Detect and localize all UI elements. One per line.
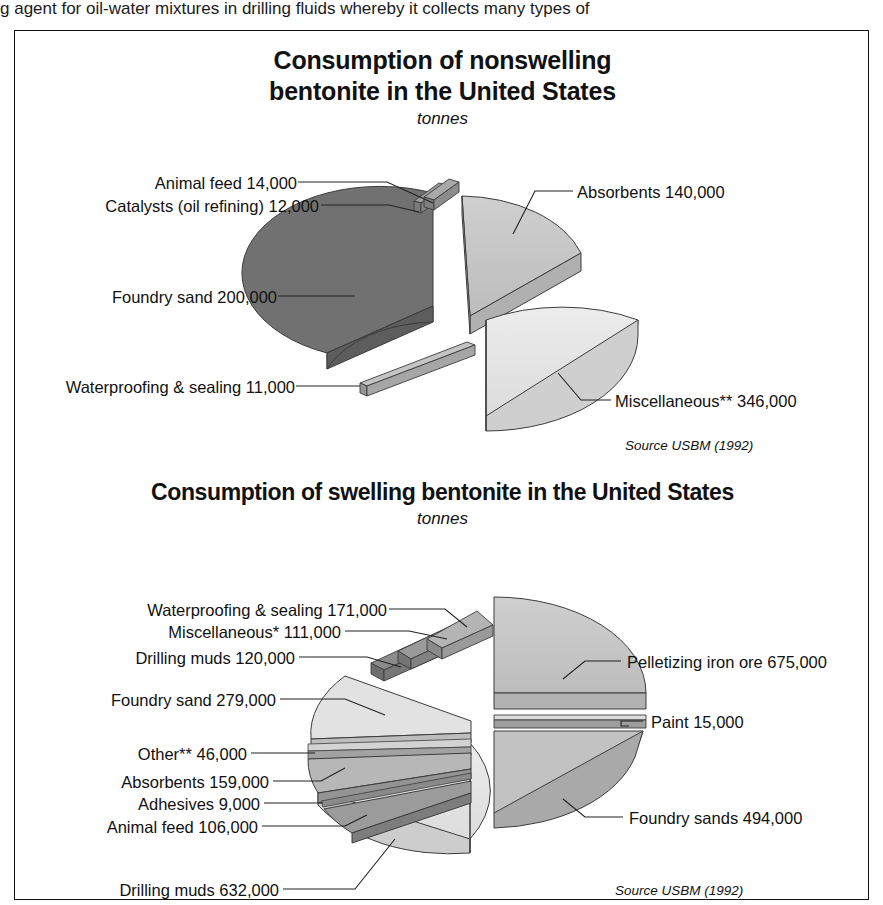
chart2-slice-foundry-sands [494,731,643,828]
page-body-text: g agent for oil-water mixtures in drilli… [0,0,883,20]
chart2-label-paint: Paint 15,000 [651,712,744,732]
chart2-subtitle: tonnes [15,509,870,529]
chart2-label-adhesives: Adhesives 9,000 [75,794,260,814]
chart1-pie-graphic [15,31,870,901]
chart2-label-animal-feed: Animal feed 106,000 [23,817,258,837]
charts-frame: Consumption of nonswelling bentonite in … [14,30,869,900]
chart2-label-pelletizing: Pelletizing iron ore 675,000 [627,652,827,672]
chart2-label-foundry-sands: Foundry sands 494,000 [629,808,802,828]
chart1-label-miscellaneous: Miscellaneous** 346,000 [615,391,797,411]
chart1-label-catalysts: Catalysts (oil refining) 12,000 [25,196,319,216]
figure-page: g agent for oil-water mixtures in drilli… [0,0,883,905]
chart1-slice-miscellaneous [486,307,638,431]
chart1-source: Source USBM (1992) [625,438,753,453]
chart2-label-absorbents: Absorbents 159,000 [35,772,269,792]
chart2-slice-waterproofing [427,611,493,659]
chart1-label-waterproofing: Waterproofing & sealing 11,000 [27,377,295,397]
chart2-label-other: Other** 46,000 [71,744,247,764]
chart2-slice-pelletizing [494,597,646,709]
chart1-slice-waterproofing [360,342,475,396]
chart2-leader-drilling-muds-large [283,839,395,889]
chart2-label-drilling-muds-small: Drilling muds 120,000 [61,648,295,668]
chart2-title: Consumption of swelling bentonite in the… [15,478,870,506]
chart1-label-foundry-sand: Foundry sand 200,000 [35,287,277,307]
chart1-label-absorbents: Absorbents 140,000 [577,182,725,202]
chart2-slice-foundry-sand [311,676,471,749]
chart2-label-waterproofing: Waterproofing & sealing 171,000 [115,600,387,620]
chart2-label-drilling-muds-large: Drilling muds 632,000 [53,880,279,900]
chart2-label-miscellaneous: Miscellaneous* 111,000 [85,622,341,642]
chart2-label-foundry-sand: Foundry sand 279,000 [35,690,276,710]
chart1-label-animal-feed: Animal feed 14,000 [75,173,297,193]
chart2-source: Source USBM (1992) [615,883,743,898]
